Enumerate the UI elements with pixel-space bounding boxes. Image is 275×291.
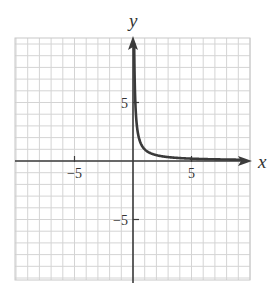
y-tick-label: 5 bbox=[121, 96, 128, 111]
function-graph: −555−5 x y bbox=[0, 0, 275, 291]
y-tick-label: −5 bbox=[113, 213, 128, 228]
x-tick-label: 5 bbox=[188, 166, 195, 181]
x-tick-label: −5 bbox=[67, 166, 82, 181]
y-axis-label: y bbox=[127, 10, 138, 31]
curve-series-0 bbox=[134, 44, 241, 160]
x-axis-label: x bbox=[257, 151, 267, 172]
